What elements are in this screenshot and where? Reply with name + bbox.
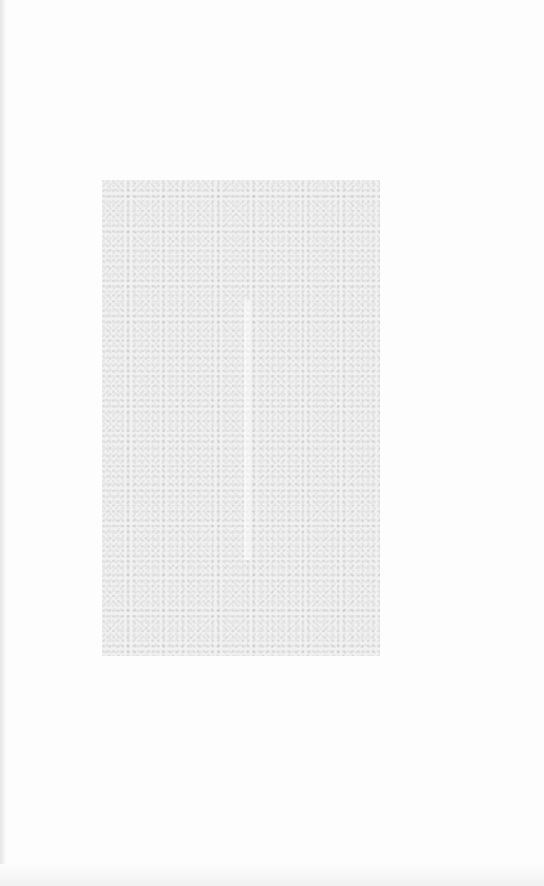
page-bottom-shadow (0, 864, 544, 886)
page-edge-shadow (0, 0, 6, 886)
faded-image-region (102, 180, 380, 656)
